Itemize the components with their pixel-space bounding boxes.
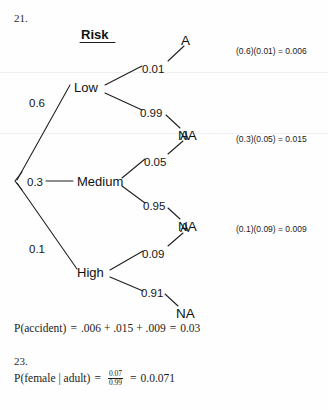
probability-tree-diagram: Risk 0.6 0.3 0.1 Low Medium High 0.01 A …	[0, 0, 328, 318]
edge-prob-high-accident: 0.09	[142, 248, 164, 260]
annotation-low-accident: (0.6)(0.01) = 0.006	[236, 46, 307, 56]
leaf-low-accident: A	[181, 33, 190, 48]
leaf-high-no-accident: NA	[176, 306, 195, 318]
p-accident-equals-1: =	[70, 322, 77, 334]
p-female-value: 0.0.071	[141, 372, 176, 384]
p-accident-equation: P(accident) = .006 + .015 + .009 = 0.03	[14, 322, 200, 334]
edge-prob-medium-no-accident: 0.95	[143, 200, 165, 212]
edge-low-no-accident-tail	[166, 115, 180, 128]
p-female-equals-2: =	[130, 372, 137, 384]
edge-medium-to-accident	[122, 159, 145, 178]
fraction-numerator: 0.07	[108, 370, 123, 378]
p-female-equation: P(female | adult) = 0.07 0.99 = 0.0.071	[14, 370, 175, 387]
p-accident-value: 0.03	[180, 322, 200, 334]
edge-prob-medium-accident: 0.05	[144, 156, 166, 168]
leaf-high-accident: A	[180, 220, 189, 235]
edge-prob-medium: 0.3	[27, 176, 43, 188]
edge-low-accident-tail	[168, 46, 184, 61]
question-number-23: 23.	[14, 355, 28, 367]
edge-medium-to-no-accident	[122, 186, 145, 203]
edge-medium-no-accident-tail	[168, 208, 180, 219]
edge-high-to-no-accident	[110, 277, 143, 291]
annotation-high-accident: (0.1)(0.09) = 0.009	[236, 224, 307, 234]
edge-prob-high: 0.1	[29, 243, 45, 255]
annotation-medium-accident: (0.3)(0.05) = 0.015	[236, 134, 307, 144]
tree-title: Risk	[81, 27, 109, 42]
root-node-marker	[15, 172, 22, 190]
node-medium: Medium	[77, 174, 123, 189]
edge-root-to-high	[17, 183, 77, 269]
leaf-medium-accident: A	[180, 128, 189, 143]
edge-high-no-accident-tail	[165, 294, 178, 306]
edge-prob-low-accident: 0.01	[142, 63, 164, 75]
edge-prob-low: 0.6	[29, 97, 45, 109]
fraction-denominator: 0.99	[108, 378, 123, 387]
p-accident-equals-2: =	[170, 322, 177, 334]
p-female-equals-1: =	[94, 372, 101, 384]
edge-prob-high-no-accident: 0.91	[141, 287, 163, 299]
p-accident-terms: .006 + .015 + .009	[81, 322, 166, 334]
edge-high-to-accident	[110, 251, 143, 270]
edge-prob-low-no-accident: 0.99	[140, 107, 162, 119]
p-accident-lhs: P(accident)	[14, 322, 66, 334]
p-female-lhs: P(female | adult)	[14, 372, 90, 384]
document-page: 21. Risk 0.6 0.3 0.1 Low Medium High 0.0…	[0, 0, 328, 410]
p-female-fraction: 0.07 0.99	[108, 370, 123, 387]
edge-low-to-no-accident	[105, 93, 142, 110]
edge-low-to-accident	[105, 66, 142, 85]
node-high: High	[77, 265, 104, 280]
node-low: Low	[74, 80, 98, 95]
